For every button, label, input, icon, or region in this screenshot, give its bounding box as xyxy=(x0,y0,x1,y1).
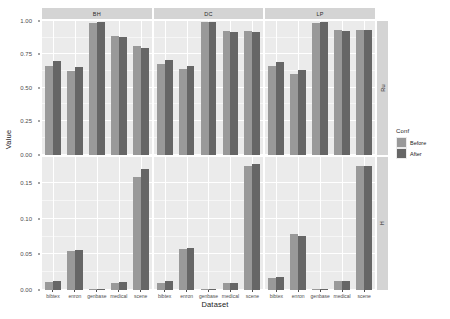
bar-before[interactable] xyxy=(223,283,231,290)
bar-before[interactable] xyxy=(356,166,364,290)
bar-group xyxy=(42,21,64,155)
strip-corner xyxy=(377,8,388,19)
bar-group xyxy=(309,157,331,291)
bar-after[interactable] xyxy=(97,22,105,154)
y-tick-label: 0.10 xyxy=(20,216,32,222)
bar-after[interactable] xyxy=(53,281,61,290)
bar-before[interactable] xyxy=(268,66,276,154)
bar-group xyxy=(86,21,108,155)
bar-before[interactable] xyxy=(223,31,231,154)
bar-before[interactable] xyxy=(89,23,97,154)
bar-after[interactable] xyxy=(141,169,149,290)
y-tick-mark xyxy=(38,254,40,255)
legend-item-after[interactable]: After xyxy=(396,148,448,159)
bar-after[interactable] xyxy=(187,248,195,290)
bar-before[interactable] xyxy=(67,251,75,290)
x-tickmarks-lp xyxy=(265,290,375,292)
bar-after[interactable] xyxy=(230,283,238,290)
bar-after[interactable] xyxy=(187,66,195,155)
bar-before[interactable] xyxy=(201,22,209,154)
bar-after[interactable] xyxy=(298,236,306,290)
bar-after[interactable] xyxy=(165,281,173,290)
x-tick-mark xyxy=(241,290,263,292)
bar-after[interactable] xyxy=(141,48,149,155)
bar-before[interactable] xyxy=(334,30,342,154)
bar-after[interactable] xyxy=(165,60,173,154)
legend-swatch-before xyxy=(397,138,406,147)
y-tick-label: 1.00 xyxy=(20,18,32,24)
bar-before[interactable] xyxy=(45,66,53,155)
bar-before[interactable] xyxy=(179,69,187,154)
bar-before[interactable] xyxy=(356,30,364,154)
bar-after[interactable] xyxy=(209,22,217,155)
bar-after[interactable] xyxy=(364,30,372,154)
bar-group xyxy=(219,157,241,291)
bar-before[interactable] xyxy=(157,64,165,154)
bar-before[interactable] xyxy=(133,46,141,155)
bar-after[interactable] xyxy=(276,62,284,154)
bar-after[interactable] xyxy=(320,22,328,154)
bar-before[interactable] xyxy=(67,71,75,154)
bar-after[interactable] xyxy=(276,277,284,290)
bar-group xyxy=(241,21,263,155)
facet-grid: BH DC LP Ru H xyxy=(42,8,388,290)
bar-before[interactable] xyxy=(290,74,298,155)
bar-before[interactable] xyxy=(334,281,342,290)
bar-group xyxy=(353,157,375,291)
bar-before[interactable] xyxy=(244,31,252,154)
bar-before[interactable] xyxy=(244,166,252,290)
bar-after[interactable] xyxy=(364,166,372,290)
bar-after[interactable] xyxy=(75,250,83,290)
y-tick-label: 0.00 xyxy=(20,287,32,293)
strip-col-2: LP xyxy=(265,8,375,19)
y-tick-mark xyxy=(38,183,40,184)
bar-group xyxy=(331,21,353,155)
panel-ru-dc xyxy=(154,21,264,155)
bar-layer xyxy=(265,21,375,155)
bar-before[interactable] xyxy=(111,283,119,290)
bar-after[interactable] xyxy=(119,37,127,154)
bar-before[interactable] xyxy=(312,23,320,154)
x-tick-mark xyxy=(331,290,353,292)
bar-layer xyxy=(42,21,152,155)
bar-after[interactable] xyxy=(298,70,306,154)
legend-item-before[interactable]: Before xyxy=(396,137,448,148)
panel-ru-bh xyxy=(42,21,152,155)
bar-after[interactable] xyxy=(75,67,83,154)
bar-before[interactable] xyxy=(133,177,141,290)
chart-root: Value 1.000.750.500.250.00 0.150.100.050… xyxy=(0,0,450,319)
bar-after[interactable] xyxy=(53,61,61,154)
bar-group xyxy=(265,157,287,291)
y-tick-mark xyxy=(38,218,40,219)
y-tick-mark xyxy=(38,121,40,122)
x-tick-mark xyxy=(108,290,130,292)
x-tick-mark xyxy=(42,290,64,292)
bar-layer xyxy=(154,157,264,291)
x-tick-mark xyxy=(198,290,220,292)
x-tick-mark xyxy=(154,290,176,292)
bar-after[interactable] xyxy=(230,32,238,155)
bar-group xyxy=(287,157,309,291)
bar-group xyxy=(86,157,108,291)
bar-before[interactable] xyxy=(268,278,276,290)
bar-before[interactable] xyxy=(179,249,187,290)
bar-group xyxy=(353,21,375,155)
legend-label-after: After xyxy=(410,151,422,157)
bar-after[interactable] xyxy=(342,281,350,290)
bar-after[interactable] xyxy=(252,164,260,290)
bar-before[interactable] xyxy=(157,283,165,290)
bar-group xyxy=(64,21,86,155)
bar-after[interactable] xyxy=(119,282,127,290)
bar-group xyxy=(309,21,331,155)
strip-col-1: DC xyxy=(154,8,264,19)
bar-before[interactable] xyxy=(290,234,298,290)
bar-after[interactable] xyxy=(342,31,350,154)
bar-group xyxy=(108,157,130,291)
bar-after[interactable] xyxy=(252,32,260,155)
panel-h-dc xyxy=(154,157,264,291)
bar-before[interactable] xyxy=(45,282,53,290)
bar-group xyxy=(108,21,130,155)
panel-ru-lp xyxy=(265,21,375,155)
bar-group xyxy=(219,21,241,155)
bar-before[interactable] xyxy=(111,36,119,154)
